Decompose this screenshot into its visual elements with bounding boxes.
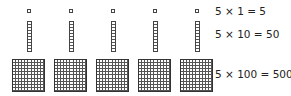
unit-cube-3 xyxy=(111,9,115,13)
unit-cube-5 xyxy=(195,9,199,13)
ten-rod-1 xyxy=(27,21,32,52)
ten-rod-3 xyxy=(111,21,116,52)
hundred-flat-1 xyxy=(12,59,45,92)
equation-hundreds: 5 × 100 = 500 xyxy=(215,68,291,80)
unit-cube-4 xyxy=(153,9,157,13)
ten-rod-4 xyxy=(153,21,158,52)
hundred-flat-4 xyxy=(138,59,171,92)
hundred-flat-5 xyxy=(180,59,213,92)
equation-units: 5 × 1 = 5 xyxy=(215,5,266,17)
unit-cube-1 xyxy=(27,9,31,13)
unit-cube-2 xyxy=(69,9,73,13)
equation-tens: 5 × 10 = 50 xyxy=(215,28,279,40)
hundred-flat-2 xyxy=(54,59,87,92)
ten-rod-2 xyxy=(69,21,74,52)
ten-rod-5 xyxy=(195,21,200,52)
hundred-flat-3 xyxy=(96,59,129,92)
